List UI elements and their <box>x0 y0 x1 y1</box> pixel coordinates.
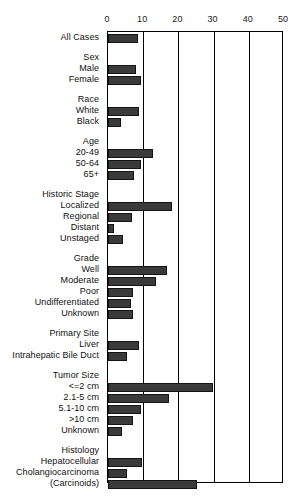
bar-row-label: Age <box>0 136 99 147</box>
bar <box>108 299 131 308</box>
bar-row-label: White <box>0 105 99 116</box>
bar-row-label: Female <box>0 74 99 85</box>
bar <box>108 416 133 425</box>
bar <box>108 277 156 286</box>
bar-row-label: Unknown <box>0 425 99 436</box>
bar <box>108 224 114 233</box>
bar <box>108 310 133 319</box>
bar <box>108 107 139 116</box>
bar <box>108 266 167 275</box>
bar <box>108 160 141 169</box>
bar-row-label: Regional <box>0 211 99 222</box>
bar <box>108 288 133 297</box>
bar-row: Black <box>0 117 297 128</box>
bar-row: Unknown <box>0 309 297 320</box>
bar-row-label: Tumor Size <box>0 370 99 381</box>
bar <box>108 469 127 478</box>
bar <box>108 480 197 489</box>
bar-row: 65+ <box>0 170 297 181</box>
bar <box>108 458 142 467</box>
bar-row: Unknown <box>0 426 297 437</box>
bar-row: All Cases <box>0 33 297 44</box>
bar-row-label: Undifferentiated <box>0 297 99 308</box>
bar-row-label: Localized <box>0 200 99 211</box>
x-axis-tick-20: 20 <box>172 14 182 25</box>
bar <box>108 149 153 158</box>
bar-row-label: 50-64 <box>0 158 99 169</box>
bar-row-label: Cholangiocarcinoma <box>0 467 99 478</box>
x-axis-tick-10: 10 <box>137 14 147 25</box>
bar-row-label: 5.1-10 cm <box>0 403 99 414</box>
bar <box>108 118 121 127</box>
bar-row-label: Distant <box>0 222 99 233</box>
bar-row-label: Unknown <box>0 308 99 319</box>
bar-row-label: Liver <box>0 339 99 350</box>
bar <box>108 383 213 392</box>
bar <box>108 76 141 85</box>
bar-row-label: 20-49 <box>0 147 99 158</box>
bar-row-label: Grade <box>0 253 99 264</box>
bar <box>108 65 136 74</box>
bar <box>108 427 122 436</box>
bar-row-label: Primary Site <box>0 328 99 339</box>
bar-row-label: Black <box>0 116 99 127</box>
x-axis-tick-40: 40 <box>243 14 253 25</box>
bar-row: Intrahepatic Bile Duct <box>0 351 297 362</box>
bar-rows-container: All CasesSexMaleFemaleRaceWhiteBlackAge2… <box>0 31 297 483</box>
bar-row: Female <box>0 75 297 86</box>
bar-row-label: Hepatocellular <box>0 456 99 467</box>
bar <box>108 34 138 43</box>
bar-row-label: Historic Stage <box>0 189 99 200</box>
bar-row-label: 2.1-5 cm <box>0 392 99 403</box>
bar <box>108 213 132 222</box>
bar <box>108 352 127 361</box>
bar-row-label: Sex <box>0 52 99 63</box>
bar <box>108 341 139 350</box>
bar-row-label: Intrahepatic Bile Duct <box>0 350 99 361</box>
x-axis-tick-labels: 01020304050 <box>0 14 297 28</box>
x-axis-tick-0: 0 <box>104 14 109 25</box>
bar <box>108 171 134 180</box>
bar <box>108 235 123 244</box>
x-axis-tick-30: 30 <box>207 14 217 25</box>
bar-row-label: Unstaged <box>0 233 99 244</box>
bar-row-label: Poor <box>0 286 99 297</box>
bar-row-label: (Carcinoids) <box>0 478 99 489</box>
bar <box>108 202 172 211</box>
bar-row-label: Histology <box>0 445 99 456</box>
horizontal-bar-chart: 01020304050 All CasesSexMaleFemaleRaceWh… <box>0 0 297 502</box>
bar-row-label: Well <box>0 264 99 275</box>
bar-row: Unstaged <box>0 234 297 245</box>
bar-row-label: 65+ <box>0 169 99 180</box>
bar-row-label: All Cases <box>0 32 99 43</box>
bar-row-label: >10 cm <box>0 414 99 425</box>
bar-row: (Carcinoids) <box>0 479 297 490</box>
bar-row-label: <=2 cm <box>0 381 99 392</box>
x-axis-tick-50: 50 <box>278 14 288 25</box>
bar-row-label: Moderate <box>0 275 99 286</box>
bar-row-label: Male <box>0 63 99 74</box>
bar-row-label: Race <box>0 94 99 105</box>
bar <box>108 394 169 403</box>
bar <box>108 405 141 414</box>
